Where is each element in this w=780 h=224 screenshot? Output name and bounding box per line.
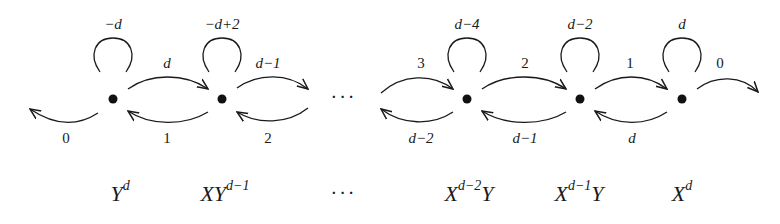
node-n1 [109, 95, 118, 104]
label-n2-to-n1: 1 [163, 130, 171, 147]
label-n5-to-n4: d [628, 130, 636, 147]
label-n1-to-n2: d [163, 55, 171, 72]
edge-n4-to-n5 [595, 77, 667, 89]
edge-n5-out-right [697, 79, 758, 92]
node-n3 [463, 95, 472, 104]
edge-n4-to-n3 [482, 111, 566, 122]
loop-n2 [203, 38, 241, 72]
loop-n5 [663, 38, 701, 72]
ellipsis-monomials: ··· [331, 182, 357, 203]
edge-n2-to-n1 [128, 111, 208, 122]
label-n2-loop: −d+2 [204, 16, 239, 33]
label-n3-to-n4: 2 [521, 55, 529, 72]
edge-n2-in-right [237, 108, 308, 121]
node-n2 [218, 95, 227, 104]
label-n5-out-right: 0 [716, 55, 724, 72]
label-n5-loop: d [678, 16, 686, 33]
monomial-n2: XYd−1 [200, 181, 249, 207]
edge-n3-out-left [381, 109, 453, 122]
edge-n5-to-n4 [595, 111, 667, 122]
label-n1-out-left: 0 [62, 130, 70, 147]
node-n4 [576, 95, 585, 104]
edge-n1-to-n2 [128, 77, 208, 89]
monomial-n4: Xd−1Y [554, 181, 603, 207]
label-n3-out-left: d−2 [408, 130, 433, 147]
ellipsis-edges: ··· [331, 86, 357, 107]
label-n2-in-right: 2 [264, 130, 272, 147]
loop-n1 [94, 38, 132, 72]
monomial-n1: Yd [110, 181, 129, 207]
label-n4-to-n3: d−1 [512, 130, 537, 147]
edge-n2-out-right [237, 77, 308, 89]
edge-n1-out-left [30, 109, 98, 122]
label-n1-loop: −d [104, 16, 122, 33]
label-n2-out-right: d−1 [255, 55, 280, 72]
loop-n4 [561, 38, 599, 72]
monomial-n5: Xd [672, 181, 692, 207]
label-n3-in-left: 3 [417, 55, 425, 72]
loop-n3 [448, 38, 486, 72]
monomial-n3: Xd−2Y [444, 181, 493, 207]
label-n4-to-n5: 1 [626, 55, 634, 72]
node-n5 [678, 95, 687, 104]
edge-n3-in-left [381, 78, 453, 93]
label-n3-loop: d−4 [454, 16, 479, 33]
label-n4-loop: d−2 [567, 16, 592, 33]
edge-n3-to-n4 [482, 77, 566, 89]
